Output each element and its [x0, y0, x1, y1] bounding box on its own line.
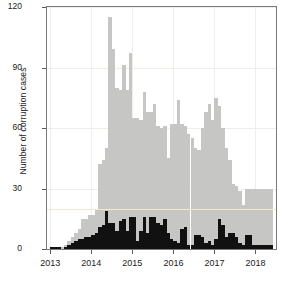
x-axis-tick-label: 2018 — [235, 258, 275, 268]
y-axis-tick-label: 90 — [13, 62, 22, 72]
x-axis-tick-label: 2013 — [30, 258, 70, 268]
gridline-horizontal — [47, 249, 276, 250]
x-axis-tick-label: 2017 — [194, 258, 234, 268]
reference-line — [47, 209, 276, 210]
y-axis-tick-label: 120 — [8, 1, 22, 11]
bar — [269, 189, 272, 250]
x-axis-tick-mark — [91, 250, 92, 254]
x-axis-tick-label: 2016 — [153, 258, 193, 268]
bar — [57, 247, 60, 249]
bar — [269, 245, 272, 249]
y-axis-tick-label: 60 — [13, 122, 22, 132]
x-axis-tick-label: 2014 — [71, 258, 111, 268]
y-axis-tick-label: 30 — [13, 183, 22, 193]
y-axis-tick-label: 0 — [17, 243, 22, 253]
x-axis-tick-mark — [255, 250, 256, 254]
x-axis-tick-mark — [173, 250, 174, 254]
x-axis-tick-mark — [214, 250, 215, 254]
x-axis-tick-mark — [50, 250, 51, 254]
x-axis-tick-label: 2015 — [112, 258, 152, 268]
x-axis-tick-mark — [132, 250, 133, 254]
corruption-cases-bar-chart: Number of corruption cases 0306090120 20… — [0, 0, 301, 282]
plot-area — [46, 6, 277, 250]
